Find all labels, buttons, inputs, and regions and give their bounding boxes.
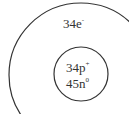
atom-diagram: 34e- 34p+ 45n0: [0, 0, 129, 114]
proton-count-label: 34p+: [66, 60, 90, 75]
neutron-count-label: 45n0: [66, 76, 90, 91]
electron-count-label: 34e-: [63, 16, 85, 31]
